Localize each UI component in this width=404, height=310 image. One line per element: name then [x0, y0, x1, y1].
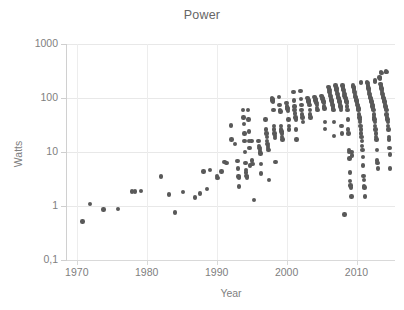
data-point	[294, 117, 298, 121]
data-point	[242, 131, 246, 135]
data-point	[315, 108, 319, 112]
data-point	[167, 192, 171, 196]
chart-title: Power	[0, 8, 404, 22]
data-point	[322, 106, 326, 110]
data-point	[271, 108, 275, 112]
gridline-horizontal	[67, 44, 395, 45]
data-point	[299, 97, 303, 101]
data-point	[375, 161, 379, 165]
data-point	[133, 189, 137, 193]
data-point	[237, 184, 241, 188]
data-point	[363, 194, 367, 198]
data-point	[267, 178, 271, 182]
data-point	[286, 109, 290, 113]
x-tick-mark	[287, 260, 288, 265]
data-point	[361, 155, 365, 159]
data-point	[219, 169, 223, 173]
data-point	[294, 137, 298, 141]
data-point	[266, 148, 270, 152]
y-tick-label: 0,1	[2, 253, 58, 265]
data-point	[80, 219, 84, 223]
data-point	[387, 146, 391, 150]
data-point	[181, 190, 185, 194]
data-point	[256, 139, 260, 143]
data-point	[373, 80, 377, 84]
x-tick-label: 2000	[257, 266, 317, 278]
chart-container: Power 0,11101001000 19701980199020002010…	[0, 0, 404, 310]
x-tick-mark	[217, 260, 218, 265]
data-point	[247, 146, 251, 150]
y-tick-label: 1000	[2, 37, 58, 49]
data-point	[323, 120, 327, 124]
gridline-vertical	[357, 44, 358, 260]
data-point	[362, 178, 366, 182]
gridline-vertical	[217, 44, 218, 260]
data-point	[287, 127, 291, 131]
data-point	[224, 161, 228, 165]
data-point	[359, 81, 363, 85]
data-point	[387, 137, 391, 141]
data-point	[236, 166, 240, 170]
data-point	[249, 139, 253, 143]
data-point	[286, 117, 290, 121]
y-tick-label: 1	[2, 199, 58, 211]
data-point	[340, 131, 344, 135]
data-point	[243, 150, 247, 154]
data-point	[280, 137, 284, 141]
data-point	[300, 115, 304, 119]
gridline-vertical	[287, 44, 288, 260]
data-point	[378, 76, 382, 80]
data-point	[273, 160, 277, 164]
data-point	[339, 124, 343, 128]
data-point	[308, 115, 312, 119]
data-point	[339, 108, 343, 112]
data-point	[346, 131, 350, 135]
y-tick-label: 10	[2, 145, 58, 157]
data-point	[259, 162, 263, 166]
data-point	[342, 212, 346, 216]
x-tick-label: 1990	[187, 266, 247, 278]
data-point	[235, 159, 239, 163]
data-point	[208, 168, 212, 172]
data-point	[360, 139, 364, 143]
data-point	[362, 185, 366, 189]
data-point	[205, 187, 209, 191]
data-point	[379, 71, 383, 75]
data-point	[345, 108, 349, 112]
data-point	[246, 108, 250, 112]
data-point	[348, 170, 352, 174]
data-point	[271, 99, 275, 103]
data-point	[301, 120, 305, 124]
data-point	[349, 185, 353, 189]
data-point	[323, 127, 327, 131]
data-point	[241, 115, 245, 119]
x-axis-title: Year	[67, 287, 395, 299]
data-point	[386, 127, 390, 131]
data-point	[243, 161, 247, 165]
data-point	[246, 117, 250, 121]
data-point	[346, 117, 350, 121]
data-point	[388, 166, 392, 170]
data-point	[332, 134, 336, 138]
data-point	[273, 136, 277, 140]
data-point	[101, 207, 105, 211]
data-point	[307, 103, 311, 107]
data-point	[139, 189, 143, 193]
data-point	[349, 194, 353, 198]
data-point	[237, 175, 241, 179]
plot-area	[67, 44, 395, 260]
data-point	[245, 175, 249, 179]
data-point	[361, 163, 365, 167]
gridline-vertical	[147, 44, 148, 260]
data-point	[292, 98, 296, 102]
y-tick-mark	[61, 44, 67, 45]
x-tick-mark	[77, 260, 78, 265]
data-point	[193, 195, 197, 199]
gridline-horizontal	[67, 152, 395, 153]
x-axis-line	[66, 260, 395, 261]
x-tick-label: 1970	[47, 266, 107, 278]
data-point	[242, 122, 246, 126]
data-point	[332, 120, 336, 124]
data-point	[278, 109, 282, 113]
data-point	[374, 137, 378, 141]
